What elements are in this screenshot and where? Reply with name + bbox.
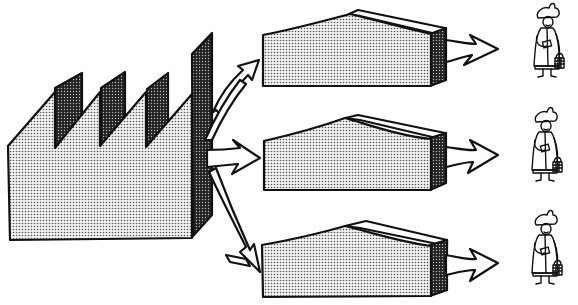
customer-1 — [534, 4, 564, 78]
warehouse-2 — [264, 115, 446, 190]
factory — [8, 33, 212, 240]
distribution-diagram — [0, 0, 578, 305]
customer-3 — [532, 211, 562, 285]
arrow-to-customer-1 — [446, 35, 498, 65]
woman-shopper-icon — [532, 108, 562, 182]
factory-to-warehouse-arrows — [205, 60, 260, 272]
customer-2 — [532, 108, 562, 182]
warehouse-3 — [262, 221, 447, 297]
arrow-to-customer-2 — [446, 140, 498, 173]
warehouse-to-customer-arrows — [446, 35, 498, 281]
woman-shopper-icon — [532, 211, 562, 285]
woman-shopper-icon — [534, 4, 564, 78]
arrow-to-customer-3 — [446, 249, 498, 281]
warehouse-1 — [263, 10, 446, 86]
